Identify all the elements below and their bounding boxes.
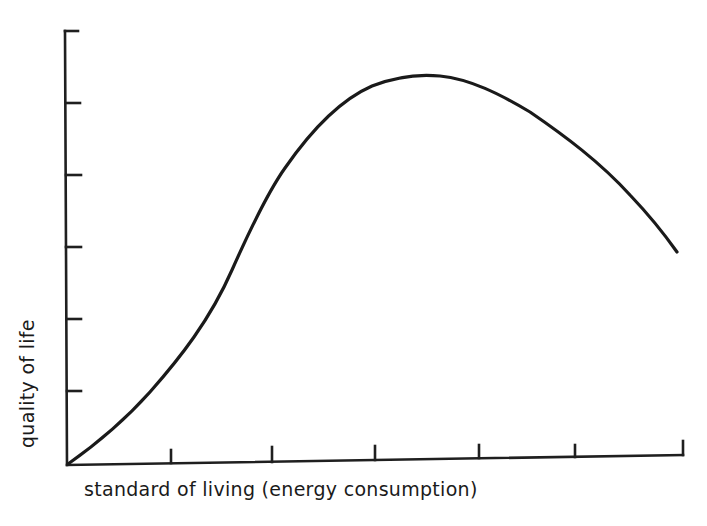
chart-plot: [0, 0, 707, 526]
y-axis: [65, 31, 81, 465]
x-axis: [67, 441, 683, 465]
data-curve: [68, 75, 677, 464]
x-axis-label: standard of living (energy consumption): [84, 478, 478, 500]
y-axis-label: quality of life: [16, 319, 38, 448]
